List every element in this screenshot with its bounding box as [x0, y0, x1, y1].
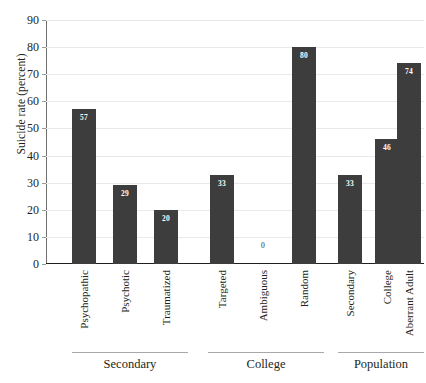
category-label-slot: College — [375, 270, 399, 346]
bar-value-label: 74 — [397, 67, 421, 76]
category-label-slot: Traumatized — [154, 270, 178, 346]
y-tick-mark — [42, 237, 46, 238]
y-tick-label: 20 — [27, 202, 39, 217]
bar-value-label: 46 — [375, 143, 399, 152]
category-label: Ambiguous — [257, 270, 269, 321]
bar: 20 — [154, 210, 178, 264]
gridline — [46, 128, 424, 129]
bar: 74 — [397, 63, 421, 264]
y-tick-mark — [42, 47, 46, 48]
bar-value-label: 33 — [210, 179, 234, 188]
y-tick-mark — [42, 74, 46, 75]
gridline — [46, 156, 424, 157]
bar: 29 — [113, 185, 137, 264]
bar-value-label: 80 — [292, 51, 316, 60]
category-label: Targeted — [216, 270, 228, 308]
y-tick-label: 10 — [27, 229, 39, 244]
gridline — [46, 237, 424, 238]
group-rule — [72, 352, 188, 353]
y-tick-mark — [42, 264, 46, 265]
x-axis-line — [46, 263, 424, 264]
y-tick-mark — [42, 101, 46, 102]
bar-value-label: 57 — [72, 113, 96, 122]
y-tick-mark — [42, 183, 46, 184]
y-tick-mark — [42, 20, 46, 21]
category-label-slot: Random — [292, 270, 316, 346]
category-label: Psychopathic — [78, 270, 90, 329]
y-tick-label: 70 — [27, 67, 39, 82]
category-label: College — [381, 270, 393, 304]
bar-value-label: 0 — [251, 241, 275, 250]
y-axis-line — [46, 20, 47, 264]
group-rule — [208, 352, 324, 353]
y-axis-title: Suicide rate (percent) — [15, 19, 27, 189]
y-tick-label: 80 — [27, 40, 39, 55]
bar-value-label: 33 — [338, 179, 362, 188]
category-label-slot: Secondary — [338, 270, 362, 346]
y-tick-label: 0 — [33, 257, 39, 272]
group-rule — [338, 352, 424, 353]
y-tick-label: 40 — [27, 148, 39, 163]
y-tick-label: 50 — [27, 121, 39, 136]
bar-chart: Suicide rate (percent) 90807060504030201… — [0, 0, 426, 383]
group-label: College — [208, 357, 324, 372]
gridline — [46, 210, 424, 211]
category-label-slot: Psychotic — [113, 270, 137, 346]
category-label-slot: Ambiguous — [251, 270, 275, 346]
y-tick-mark — [42, 128, 46, 129]
y-tick-mark — [42, 156, 46, 157]
bar: 33 — [210, 175, 234, 264]
gridline — [46, 101, 424, 102]
bar-value-label: 29 — [113, 189, 137, 198]
category-label: Traumatized — [160, 270, 172, 325]
bar: 57 — [72, 109, 96, 264]
plot-area: 9080706050403020100 57292033080334674 — [46, 20, 424, 264]
category-label: Psychotic — [119, 270, 131, 313]
category-label-slot: Aberrant Adult — [397, 270, 421, 346]
gridline — [46, 74, 424, 75]
group-label: Secondary — [72, 357, 188, 372]
category-label: Secondary — [344, 270, 356, 316]
category-label: Random — [298, 270, 310, 307]
y-tick-mark — [42, 210, 46, 211]
gridline — [46, 183, 424, 184]
y-tick-label: 90 — [27, 13, 39, 28]
gridline — [46, 47, 424, 48]
category-label-slot: Psychopathic — [72, 270, 96, 346]
gridline — [46, 20, 424, 21]
bar: 33 — [338, 175, 362, 264]
y-tick-label: 30 — [27, 175, 39, 190]
y-tick-label: 60 — [27, 94, 39, 109]
group-label: Population — [338, 357, 424, 372]
category-label: Aberrant Adult — [403, 270, 415, 336]
bar: 46 — [375, 139, 399, 264]
top-edge-artifact — [20, 0, 360, 3]
category-label-slot: Targeted — [210, 270, 234, 346]
bar-value-label: 20 — [154, 214, 178, 223]
bar: 80 — [292, 47, 316, 264]
